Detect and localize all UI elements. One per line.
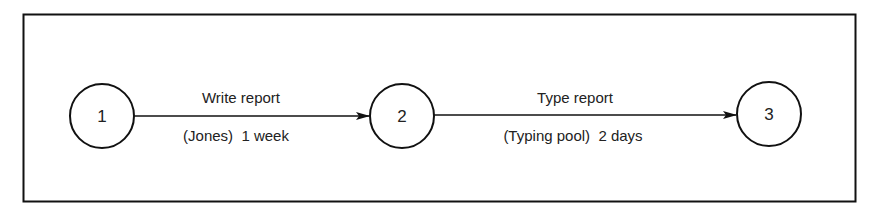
node-number: 1: [97, 107, 106, 126]
activity-name: Type report: [537, 89, 614, 106]
node-number: 3: [764, 105, 773, 124]
activity-write-report: Write report (Jones) 1 week: [134, 89, 369, 144]
network-diagram: Write report (Jones) 1 week Type report …: [0, 0, 876, 211]
node-number: 2: [397, 107, 406, 126]
activity-type-report: Type report (Typing pool) 2 days: [434, 89, 736, 144]
node-2: 2: [370, 84, 434, 148]
activity-detail: (Jones) 1 week: [183, 127, 289, 144]
node-3: 3: [737, 82, 801, 146]
diagram-frame: [24, 15, 856, 202]
activity-name: Write report: [202, 89, 281, 106]
node-1: 1: [70, 84, 134, 148]
activity-detail: (Typing pool) 2 days: [503, 127, 642, 144]
